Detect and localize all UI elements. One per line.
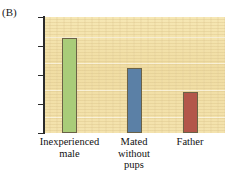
y-axis-tick: [38, 104, 44, 106]
y-axis-tick: [38, 75, 44, 77]
panel-label: (B): [2, 6, 17, 18]
bar: [127, 68, 142, 133]
plot-area: [44, 17, 225, 133]
figure-panel-b: (B) Progesterone (ng/ml) 01234Inexperien…: [0, 0, 231, 174]
x-axis-tick-label: Father: [150, 136, 230, 148]
bar: [62, 38, 77, 133]
y-axis-tick: [38, 46, 44, 48]
y-axis-tick: [38, 17, 44, 19]
y-axis-tick: [38, 133, 44, 135]
bar: [183, 92, 198, 133]
